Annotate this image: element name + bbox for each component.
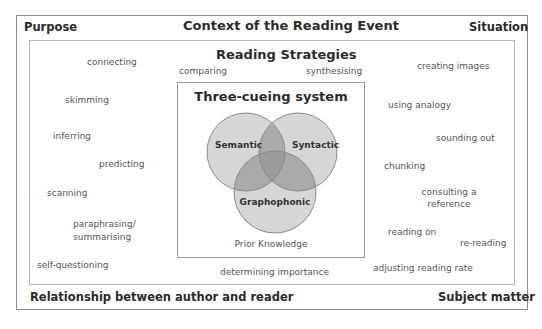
semantic-label: Semantic [215,141,262,150]
graphophonic-label: Graphophonic [235,198,315,207]
venn-fills [207,113,337,233]
prior-knowledge-label: Prior Knowledge [177,240,365,249]
venn-diagram [0,0,542,329]
syntactic-label: Syntactic [292,141,339,150]
